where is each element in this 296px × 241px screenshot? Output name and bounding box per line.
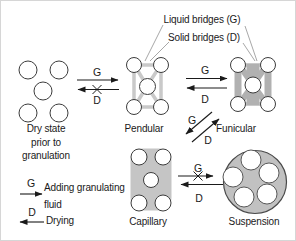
dry-state-label-line2: prior to	[31, 137, 62, 148]
particle	[234, 187, 254, 207]
funicular-label: Funicular	[216, 123, 257, 134]
particle	[131, 195, 147, 211]
d-symbol: D	[195, 192, 203, 204]
particle	[19, 104, 37, 122]
leader-line-liquid-pendular	[145, 25, 163, 61]
d-symbol: D	[201, 93, 209, 105]
capillary-structure	[131, 149, 172, 212]
dry-state-label-line3: granulation	[22, 150, 70, 161]
liquid-bridges-label: Liquid bridges (G)	[164, 14, 241, 25]
legend-adding-line2: fluid	[44, 199, 62, 210]
particle	[127, 58, 142, 73]
figure-frame: Liquid bridges (G) Solid bridges (D) Dry…	[0, 0, 296, 241]
particle	[127, 100, 142, 115]
particle	[19, 61, 37, 79]
g-symbol: G	[27, 177, 35, 189]
suspension-structure	[223, 150, 287, 214]
capillary-label: Capillary	[129, 216, 167, 227]
particle	[231, 97, 246, 112]
particle	[144, 173, 159, 188]
particle	[231, 58, 246, 73]
particle	[154, 100, 169, 115]
particle	[245, 77, 261, 93]
d-symbol: D	[93, 94, 101, 106]
particle	[241, 150, 261, 170]
particle	[223, 167, 243, 187]
particle	[257, 184, 277, 204]
particle	[155, 195, 171, 211]
dry-state-structure	[19, 61, 68, 122]
dry-state-label-line1: Dry state	[27, 123, 66, 134]
particle	[50, 104, 68, 122]
granulation-diagram: Liquid bridges (G) Solid bridges (D) Dry…	[1, 1, 296, 241]
suspension-label: Suspension	[229, 216, 280, 227]
leader-line-solid-funicular	[243, 43, 255, 61]
particle	[261, 58, 276, 73]
legend-adding-line1: Adding granulating	[44, 182, 125, 193]
particle	[140, 79, 156, 95]
particle	[34, 82, 52, 100]
particle	[155, 149, 171, 165]
arrow-set-capillary-suspension: G D	[178, 162, 223, 204]
g-symbol: G	[93, 66, 101, 78]
d-symbol: D	[28, 206, 36, 218]
arrow-set-pendular-funicular: G D	[186, 64, 227, 105]
g-symbol: G	[194, 162, 202, 174]
g-symbol: G	[188, 114, 196, 126]
particle	[131, 149, 147, 165]
arrow-set-funicular-capillary: G D	[186, 112, 219, 146]
bridge-annotations: Liquid bridges (G) Solid bridges (D)	[145, 14, 257, 61]
arrow-set-dry-pendular: G D	[77, 66, 119, 106]
solid-bridges-label: Solid bridges (D)	[168, 32, 240, 43]
legend-drying-label: Drying	[46, 215, 74, 226]
funicular-structure	[231, 58, 276, 112]
pendular-label: Pendular	[125, 123, 165, 134]
legend: G Adding granulating fluid D Drying	[20, 177, 125, 226]
particle	[261, 97, 276, 112]
particle	[154, 58, 169, 73]
dry-state-label: Dry state prior to granulation	[22, 123, 70, 161]
g-symbol: G	[201, 64, 209, 76]
d-symbol: D	[204, 134, 212, 146]
pendular-structure	[127, 58, 169, 115]
particle	[50, 61, 68, 79]
particle	[259, 163, 279, 183]
